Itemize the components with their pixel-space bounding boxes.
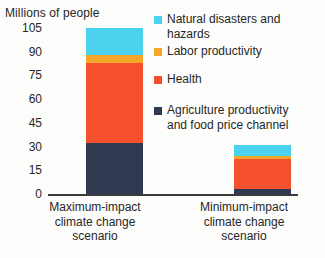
legend-swatch-icon xyxy=(154,107,162,115)
x-label-line: Maximum-impact xyxy=(25,200,165,215)
legend-swatch-icon xyxy=(154,76,162,84)
legend-label-line: Agriculture productivity xyxy=(167,103,288,118)
y-axis-tick-label: 15 xyxy=(8,164,42,176)
legend-swatch-icon xyxy=(154,48,162,56)
legend-label: Natural disasters andhazards xyxy=(167,12,280,41)
x-label-line: Minimum-impact xyxy=(174,200,314,215)
legend-item[interactable]: Agriculture productivityand food price c… xyxy=(154,103,288,132)
x-label-maximum-impact: Maximum-impactclimate changescenario xyxy=(25,200,165,244)
x-label-line: climate change xyxy=(174,215,314,230)
stacked-bar-chart: Millions of people 0153045607590105 Maxi… xyxy=(0,0,325,258)
legend-label: Labor productivity xyxy=(167,44,262,59)
legend-label-line: Labor productivity xyxy=(167,44,262,59)
legend-label: Agriculture productivityand food price c… xyxy=(167,103,288,132)
y-axis-tick-label: 30 xyxy=(8,141,42,153)
legend-swatch-icon xyxy=(154,16,162,24)
x-axis-baseline xyxy=(48,194,298,196)
legend-label-line: Health xyxy=(167,72,202,87)
y-axis-tick-label: 75 xyxy=(8,69,42,81)
y-axis-tick-label: 105 xyxy=(8,22,42,34)
bar-segment[interactable] xyxy=(86,143,143,194)
bar-segment[interactable] xyxy=(234,189,291,194)
bar-segment[interactable] xyxy=(234,159,291,189)
bar-minimum-impact[interactable] xyxy=(234,145,291,194)
x-label-line: scenario xyxy=(25,229,165,244)
x-label-line: scenario xyxy=(174,229,314,244)
legend-label-line: and food price channel xyxy=(167,118,288,133)
y-axis-tick-label: 0 xyxy=(8,188,42,200)
y-axis-tick-label: 45 xyxy=(8,117,42,129)
legend-item[interactable]: Natural disasters andhazards xyxy=(154,12,280,41)
legend-item[interactable]: Labor productivity xyxy=(154,44,262,59)
bar-segment[interactable] xyxy=(86,28,143,55)
legend-label: Health xyxy=(167,72,202,87)
bar-segment[interactable] xyxy=(86,63,143,144)
bar-segment[interactable] xyxy=(86,55,143,63)
bar-segment[interactable] xyxy=(234,145,291,156)
x-label-line: climate change xyxy=(25,215,165,230)
x-label-minimum-impact: Minimum-impactclimate changescenario xyxy=(174,200,314,244)
bar-maximum-impact[interactable] xyxy=(86,28,143,194)
legend-label-line: Natural disasters and xyxy=(167,12,280,27)
legend-item[interactable]: Health xyxy=(154,72,202,87)
legend-label-line: hazards xyxy=(167,27,280,42)
y-axis-tick-label: 90 xyxy=(8,46,42,58)
y-axis-tick-label: 60 xyxy=(8,93,42,105)
